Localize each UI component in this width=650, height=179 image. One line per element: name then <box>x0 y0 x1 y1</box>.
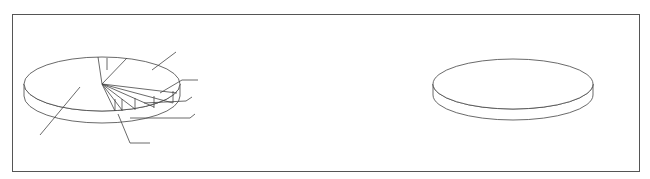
pie-charts-graphic <box>0 0 650 179</box>
